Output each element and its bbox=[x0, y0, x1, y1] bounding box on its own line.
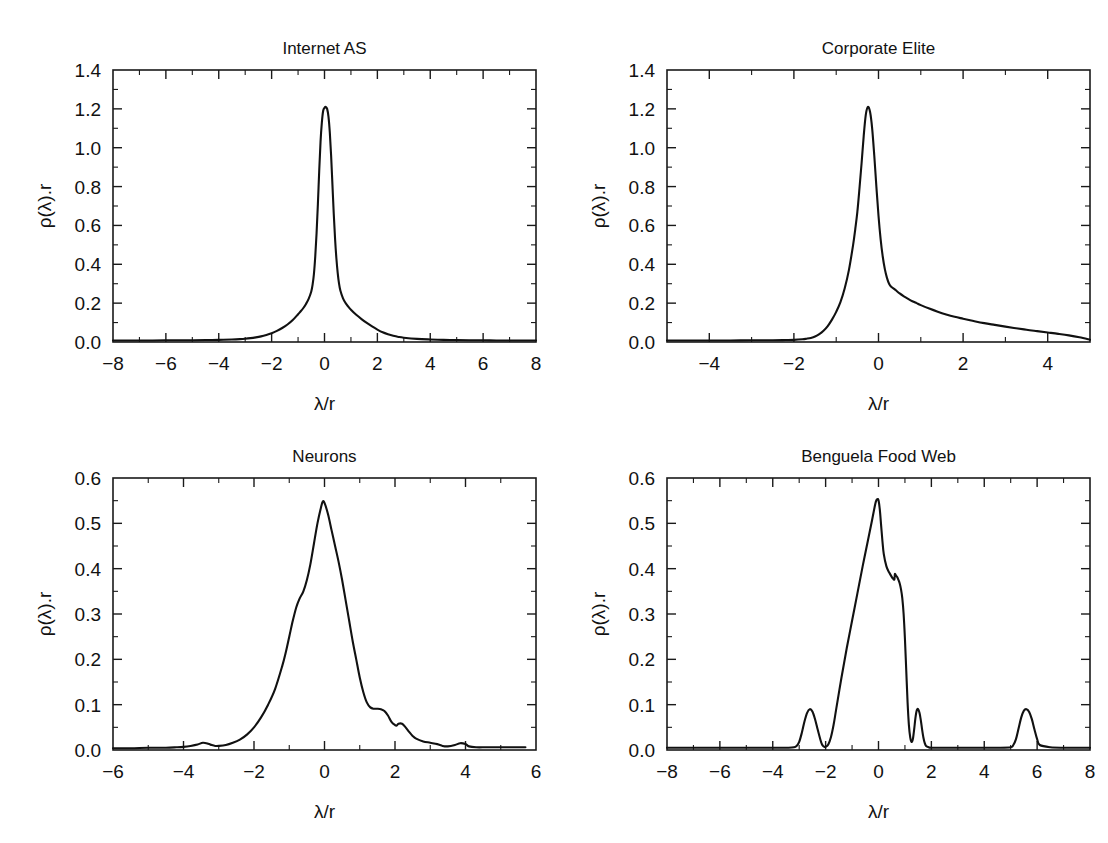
y-tick-label: 0.4 bbox=[629, 559, 656, 580]
y-tick-label: 0.1 bbox=[629, 695, 655, 716]
y-tick-label: 0.8 bbox=[629, 177, 655, 198]
y-axis-label: ρ(λ).r bbox=[34, 183, 55, 228]
y-tick-label: 0.0 bbox=[629, 740, 655, 761]
chart-benguela-food-web: Benguela Food Web−8−6−4−2024680.00.10.20… bbox=[572, 432, 1108, 832]
x-tick-label: −2 bbox=[243, 761, 265, 782]
y-tick-label: 0.3 bbox=[75, 604, 101, 625]
y-tick-label: 1.0 bbox=[75, 138, 101, 159]
y-tick-label: 0.5 bbox=[629, 513, 655, 534]
x-axis-label: λ/r bbox=[868, 393, 890, 414]
x-axis-label: λ/r bbox=[314, 801, 336, 822]
x-tick-label: 8 bbox=[1085, 761, 1096, 782]
panel-internet-as: Internet AS−8−6−4−2024680.00.20.40.60.81… bbox=[18, 24, 554, 424]
x-tick-label: −6 bbox=[155, 353, 177, 374]
x-tick-label: 0 bbox=[873, 353, 884, 374]
x-tick-label: −2 bbox=[261, 353, 283, 374]
y-tick-label: 0.2 bbox=[629, 293, 655, 314]
y-tick-label: 0.4 bbox=[75, 254, 102, 275]
y-tick-label: 1.2 bbox=[75, 99, 101, 120]
x-tick-label: 0 bbox=[319, 761, 330, 782]
x-tick-label: −4 bbox=[762, 761, 784, 782]
x-tick-label: 2 bbox=[926, 761, 937, 782]
y-tick-label: 0.5 bbox=[75, 513, 101, 534]
y-tick-label: 0.0 bbox=[75, 740, 101, 761]
x-tick-label: −8 bbox=[102, 353, 124, 374]
x-tick-label: 4 bbox=[979, 761, 990, 782]
density-curve bbox=[113, 107, 536, 341]
x-tick-label: −4 bbox=[698, 353, 720, 374]
plot-frame bbox=[113, 70, 536, 342]
y-tick-label: 0.6 bbox=[75, 468, 101, 489]
density-curve bbox=[667, 499, 1090, 748]
chart-neurons: Neurons−6−4−202460.00.10.20.30.40.50.6λ/… bbox=[18, 432, 554, 832]
y-tick-label: 1.2 bbox=[629, 99, 655, 120]
panel-benguela-food-web: Benguela Food Web−8−6−4−2024680.00.10.20… bbox=[572, 432, 1108, 832]
chart-title: Corporate Elite bbox=[822, 39, 935, 58]
chart-title: Benguela Food Web bbox=[801, 447, 956, 466]
y-tick-label: 0.2 bbox=[629, 649, 655, 670]
x-tick-label: 4 bbox=[425, 353, 436, 374]
y-tick-label: 0.1 bbox=[75, 695, 101, 716]
y-tick-label: 1.0 bbox=[629, 138, 655, 159]
y-axis-label: ρ(λ).r bbox=[34, 591, 55, 636]
y-tick-label: 1.4 bbox=[629, 60, 656, 81]
x-tick-label: −6 bbox=[102, 761, 124, 782]
x-tick-label: 6 bbox=[1032, 761, 1043, 782]
x-tick-label: 0 bbox=[873, 761, 884, 782]
spectral-density-figure: Internet AS−8−6−4−2024680.00.20.40.60.81… bbox=[0, 0, 1108, 843]
x-tick-label: 0 bbox=[319, 353, 330, 374]
x-tick-label: −2 bbox=[783, 353, 805, 374]
x-tick-label: −6 bbox=[709, 761, 731, 782]
y-tick-label: 0.6 bbox=[629, 468, 655, 489]
chart-corporate-elite: Corporate Elite−4−20240.00.20.40.60.81.0… bbox=[572, 24, 1108, 424]
x-tick-label: 4 bbox=[460, 761, 471, 782]
panel-neurons: Neurons−6−4−202460.00.10.20.30.40.50.6λ/… bbox=[18, 432, 554, 832]
density-curve bbox=[667, 107, 1090, 341]
x-tick-label: −4 bbox=[208, 353, 230, 374]
y-tick-label: 0.0 bbox=[75, 332, 101, 353]
y-tick-label: 0.2 bbox=[75, 649, 101, 670]
y-tick-label: 0.4 bbox=[75, 559, 102, 580]
plot-frame bbox=[113, 478, 536, 750]
y-tick-label: 1.4 bbox=[75, 60, 102, 81]
chart-title: Internet AS bbox=[282, 39, 366, 58]
x-tick-label: 6 bbox=[478, 353, 489, 374]
y-tick-label: 0.4 bbox=[629, 254, 656, 275]
chart-internet-as: Internet AS−8−6−4−2024680.00.20.40.60.81… bbox=[18, 24, 554, 424]
y-tick-label: 0.0 bbox=[629, 332, 655, 353]
x-tick-label: 8 bbox=[531, 353, 542, 374]
x-tick-label: 4 bbox=[1042, 353, 1053, 374]
x-tick-label: −8 bbox=[656, 761, 678, 782]
y-tick-label: 0.6 bbox=[75, 215, 101, 236]
x-axis-label: λ/r bbox=[868, 801, 890, 822]
y-tick-label: 0.6 bbox=[629, 215, 655, 236]
x-tick-label: −2 bbox=[815, 761, 837, 782]
density-curve bbox=[113, 501, 525, 748]
panel-corporate-elite: Corporate Elite−4−20240.00.20.40.60.81.0… bbox=[572, 24, 1108, 424]
x-tick-label: −4 bbox=[173, 761, 195, 782]
x-axis-label: λ/r bbox=[314, 393, 336, 414]
y-tick-label: 0.8 bbox=[75, 177, 101, 198]
y-tick-label: 0.3 bbox=[629, 604, 655, 625]
x-tick-label: 2 bbox=[390, 761, 401, 782]
x-tick-label: 2 bbox=[372, 353, 383, 374]
x-tick-label: 6 bbox=[531, 761, 542, 782]
y-axis-label: ρ(λ).r bbox=[588, 183, 609, 228]
y-axis-label: ρ(λ).r bbox=[588, 591, 609, 636]
y-tick-label: 0.2 bbox=[75, 293, 101, 314]
x-tick-label: 2 bbox=[958, 353, 969, 374]
chart-title: Neurons bbox=[292, 447, 356, 466]
